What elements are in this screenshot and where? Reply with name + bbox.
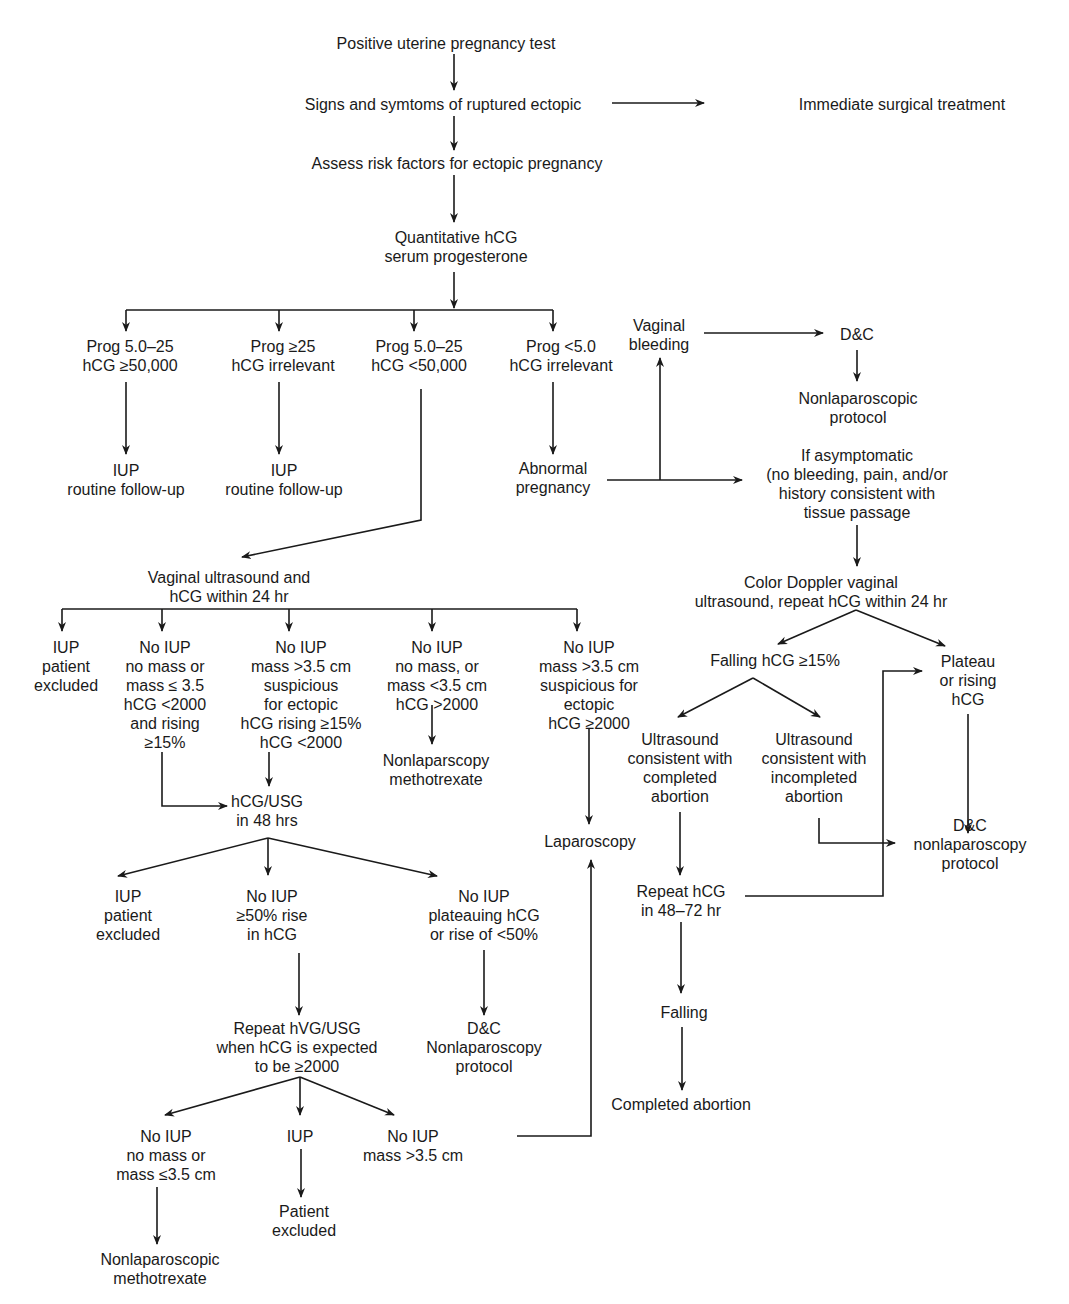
repeat-hvg-usg-node: Repeat hVG/USG when hCG is expected to b… xyxy=(217,1019,378,1076)
node-text: or rising xyxy=(940,671,997,690)
vu-no-iup-mass-hcg-ge-2000-node: No IUP mass >3.5 cm suspicious for ectop… xyxy=(539,638,639,733)
vu-iup-patient-excluded-node: IUP patient excluded xyxy=(34,638,98,695)
node-text: Falling xyxy=(660,1003,707,1022)
node-text: consistent with xyxy=(762,749,867,768)
node-text: mass >3.5 cm xyxy=(363,1146,463,1165)
node-text: patient xyxy=(96,906,160,925)
node-text: or rise of <50% xyxy=(428,925,539,944)
node-text: No IUP xyxy=(241,638,362,657)
iup-routine-followup-b-node: IUP routine follow-up xyxy=(225,461,342,499)
node-text: excluded xyxy=(272,1221,336,1240)
vu-no-iup-no-mass-node: No IUP no mass or mass ≤ 3.5 hCG <2000 a… xyxy=(124,638,206,752)
prog-lt-5-node: Prog <5.0 hCG irrelevant xyxy=(509,337,612,375)
node-text: D&C xyxy=(914,816,1027,835)
node-text: protocol xyxy=(798,408,917,427)
node-text: Completed abortion xyxy=(611,1095,751,1114)
falling-node: Falling xyxy=(660,1003,707,1022)
node-text: IUP xyxy=(225,461,342,480)
node-text: hCG >2000 xyxy=(387,695,487,714)
node-text: Prog 5.0–25 xyxy=(82,337,177,356)
node-text: abortion xyxy=(628,787,733,806)
node-text: to be ≥2000 xyxy=(217,1057,378,1076)
node-text: excluded xyxy=(34,676,98,695)
node-text: incompleted xyxy=(762,768,867,787)
prog-5-25-hcg-ge-50000-node: Prog 5.0–25 hCG ≥50,000 xyxy=(82,337,177,375)
node-text: and rising xyxy=(124,714,206,733)
node-text: plateauing hCG xyxy=(428,906,539,925)
vu-no-iup-no-mass-hcg-gt-2000-node: No IUP no mass, or mass <3.5 cm hCG >200… xyxy=(387,638,487,714)
assess-risk-factors-node: Assess risk factors for ectopic pregnanc… xyxy=(312,154,603,173)
node-text: hCG irrelevant xyxy=(231,356,334,375)
node-text: No IUP xyxy=(363,1127,463,1146)
node-text: IUP xyxy=(67,461,184,480)
rep-no-iup-mass-node: No IUP mass >3.5 cm xyxy=(363,1127,463,1165)
node-text: suspicious xyxy=(241,676,362,695)
node-text: Repeat hVG/USG xyxy=(217,1019,378,1038)
node-text: no mass, or xyxy=(387,657,487,676)
falling-hcg-15-node: Falling hCG ≥15% xyxy=(710,651,840,670)
node-text: No IUP xyxy=(236,887,307,906)
node-text: ultrasound, repeat hCG within 24 hr xyxy=(695,592,948,611)
ruptured-ectopic-signs-node: Signs and symtoms of ruptured ectopic xyxy=(305,95,582,114)
rep-no-iup-no-mass-node: No IUP no mass or mass ≤3.5 cm xyxy=(116,1127,215,1184)
node-text: Nonlaparoscopic xyxy=(798,389,917,408)
node-text: hCG <2000 xyxy=(124,695,206,714)
node-text: hCG within 24 hr xyxy=(148,587,311,606)
node-text: Repeat hCG xyxy=(637,882,726,901)
node-text: no mass or xyxy=(124,657,206,676)
node-text: mass >3.5 cm xyxy=(241,657,362,676)
node-text: D&C xyxy=(840,325,874,344)
node-text: no mass or xyxy=(116,1146,215,1165)
node-text: hCG rising ≥15% xyxy=(241,714,362,733)
nonlaparoscopy-methotrexate-mid-node: Nonlaparscopy methotrexate xyxy=(383,751,490,789)
node-text: Vaginal ultrasound and xyxy=(148,568,311,587)
node-text: No IUP xyxy=(428,887,539,906)
node-text: hCG <2000 xyxy=(241,733,362,752)
node-text: hCG irrelevant xyxy=(509,356,612,375)
node-text: hCG/USG xyxy=(231,792,303,811)
vaginal-bleeding-node: Vaginal bleeding xyxy=(629,316,690,354)
nonlaparoscopic-methotrexate-bottom-node: Nonlaparoscopic methotrexate xyxy=(100,1250,219,1288)
r48-no-iup-50-rise-node: No IUP ≥50% rise in hCG xyxy=(236,887,307,944)
positive-pregnancy-test-node: Positive uterine pregnancy test xyxy=(337,34,556,53)
node-text: No IUP xyxy=(124,638,206,657)
rep-iup-node: IUP xyxy=(287,1127,314,1146)
node-text: for ectopic xyxy=(241,695,362,714)
node-text: completed xyxy=(628,768,733,787)
node-text: methotrexate xyxy=(383,770,490,789)
node-text: routine follow-up xyxy=(67,480,184,499)
node-text: Positive uterine pregnancy test xyxy=(337,34,556,53)
ultrasound-completed-abortion-node: Ultrasound consistent with completed abo… xyxy=(628,730,733,806)
node-text: abortion xyxy=(762,787,867,806)
node-text: Signs and symtoms of ruptured ectopic xyxy=(305,95,582,114)
node-text: IUP xyxy=(287,1127,314,1146)
node-text: Color Doppler vaginal xyxy=(695,573,948,592)
patient-excluded-node: Patient excluded xyxy=(272,1202,336,1240)
node-text: Ultrasound xyxy=(628,730,733,749)
plateau-rising-hcg-node: Plateau or rising hCG xyxy=(940,652,997,709)
node-text: tissue passage xyxy=(766,503,947,522)
node-text: Nonlaparoscopy xyxy=(426,1038,542,1057)
node-text: Immediate surgical treatment xyxy=(799,95,1005,114)
if-asymptomatic-node: If asymptomatic (no bleeding, pain, and/… xyxy=(766,446,947,522)
node-text: methotrexate xyxy=(100,1269,219,1288)
node-text: hCG ≥50,000 xyxy=(82,356,177,375)
node-text: routine follow-up xyxy=(225,480,342,499)
node-text: suspicious for xyxy=(539,676,639,695)
node-text: protocol xyxy=(426,1057,542,1076)
node-text: Prog 5.0–25 xyxy=(371,337,467,356)
node-text: Nonlaparoscopic xyxy=(100,1250,219,1269)
node-text: in 48–72 hr xyxy=(637,901,726,920)
iup-routine-followup-a-node: IUP routine follow-up xyxy=(67,461,184,499)
node-text: ≥15% xyxy=(124,733,206,752)
r48-no-iup-plateauing-node: No IUP plateauing hCG or rise of <50% xyxy=(428,887,539,944)
node-text: Vaginal xyxy=(629,316,690,335)
node-text: Prog <5.0 xyxy=(509,337,612,356)
node-text: Plateau xyxy=(940,652,997,671)
quantitative-hcg-node: Quantitative hCG serum progesterone xyxy=(384,228,527,266)
node-text: ≥50% rise xyxy=(236,906,307,925)
node-text: serum progesterone xyxy=(384,247,527,266)
node-text: Nonlaparscopy xyxy=(383,751,490,770)
node-text: mass ≤3.5 cm xyxy=(116,1165,215,1184)
node-text: If asymptomatic xyxy=(766,446,947,465)
